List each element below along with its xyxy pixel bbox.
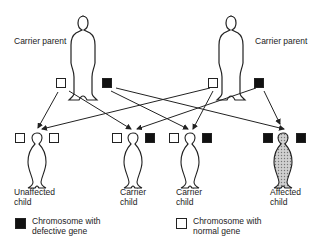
child-figure-unaffected [28, 133, 46, 188]
right-parent-label: Carrier parent [255, 36, 307, 46]
child2-label: Carrier child [120, 187, 146, 207]
legend-normal-label: Chromosome with normal gene [193, 216, 262, 236]
legend-normal-swatch [176, 218, 187, 229]
right-parent-figure [217, 16, 245, 100]
legend-defective-label: Chromosome with defective gene [32, 216, 101, 236]
child1-chromosome-left [15, 133, 25, 143]
child3-chromosome-right [202, 133, 212, 143]
right-parent-defective-chromosome [254, 78, 264, 88]
child-figure-carrier-2 [181, 133, 199, 188]
child3-chromosome-left [169, 133, 179, 143]
child2-chromosome-right [145, 133, 155, 143]
child4-chromosome-left [263, 133, 273, 143]
child2-chromosome-left [112, 133, 122, 143]
inheritance-arrows [38, 88, 284, 129]
child1-label: Unaffected child [14, 187, 55, 207]
right-parent-normal-chromosome [208, 78, 218, 88]
child4-chromosome-right [296, 133, 306, 143]
child3-label: Carrier child [176, 187, 202, 207]
left-parent-figure [69, 16, 97, 100]
left-parent-defective-chromosome [102, 78, 112, 88]
left-parent-label: Carrier parent [14, 36, 66, 46]
child-figure-affected [274, 133, 292, 188]
left-parent-normal-chromosome [56, 78, 66, 88]
child4-label: Affected child [270, 187, 301, 207]
legend-defective-swatch [15, 218, 26, 229]
child-figure-carrier-1 [124, 133, 142, 188]
child1-chromosome-right [49, 133, 59, 143]
